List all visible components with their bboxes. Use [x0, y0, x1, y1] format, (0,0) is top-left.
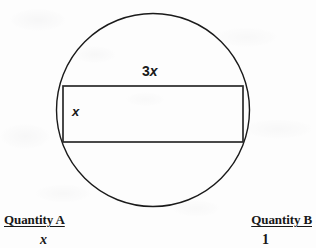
circle-shape	[57, 14, 250, 207]
width-label-coefficient: 3	[142, 63, 150, 79]
quantity-b-heading: Quantity B	[251, 212, 312, 228]
quantity-b-value: 1	[162, 232, 312, 248]
quantity-a-value: x	[4, 232, 154, 248]
width-label-variable: x	[150, 63, 158, 79]
quantitative-comparison: Quantity A x Quantity B 1	[0, 210, 316, 248]
problem-figure-page: 3x x Quantity A x Quantity B 1	[0, 0, 316, 248]
rectangle-width-label: 3x	[142, 63, 158, 79]
quantity-a-column: Quantity A x	[4, 210, 154, 248]
geometry-figure	[0, 0, 316, 212]
quantity-a-heading: Quantity A	[4, 212, 65, 228]
quantity-b-column: Quantity B 1	[162, 210, 316, 248]
rectangle-height-label: x	[72, 104, 79, 119]
inscribed-rectangle-shape	[63, 86, 243, 142]
